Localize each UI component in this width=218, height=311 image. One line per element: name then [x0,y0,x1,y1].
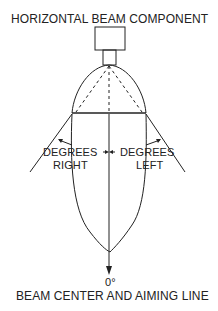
beam-diagram [0,0,218,311]
degrees-right-label: DEGREES [43,146,98,158]
degrees-left-label: DEGREES [120,146,175,158]
degrees-right-label-2: RIGHT [53,159,88,171]
lamp-neck [103,50,116,65]
degrees-left-label-2: LEFT [136,159,163,171]
lamp-housing [95,27,125,50]
beam-center-label: BEAM CENTER AND AIMING LINE [16,289,209,303]
diagram-title: HORIZONTAL BEAM COMPONENT [11,12,208,26]
zero-degree-label: 0° [105,276,116,288]
